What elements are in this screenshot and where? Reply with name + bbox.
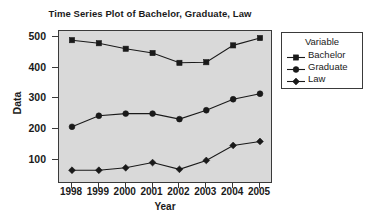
- y-tick-mark: [52, 128, 58, 129]
- data-point: [257, 91, 263, 97]
- data-point: [203, 107, 209, 113]
- legend-item-law[interactable]: Law: [286, 72, 358, 84]
- data-point: [150, 50, 155, 55]
- x-tick-mark: [259, 183, 260, 188]
- series-graduate: [69, 91, 263, 130]
- plot-svg: [59, 31, 273, 184]
- y-tick-mark: [52, 67, 58, 68]
- data-point: [149, 159, 156, 166]
- x-tick-mark: [232, 183, 233, 188]
- data-point: [204, 60, 209, 65]
- x-tick-mark: [152, 183, 153, 188]
- x-tick-mark: [205, 183, 206, 188]
- x-tick-mark: [98, 183, 99, 188]
- y-tick-mark: [52, 159, 58, 160]
- diamond-marker-icon: [286, 73, 306, 84]
- data-point: [96, 113, 102, 119]
- y-axis-title: Data: [11, 73, 23, 133]
- data-point: [257, 138, 264, 145]
- x-tick-mark: [178, 183, 179, 188]
- circle-marker-icon: [286, 61, 306, 72]
- data-point: [230, 142, 237, 149]
- y-tick-label: 100: [12, 153, 46, 165]
- legend-label: Law: [308, 73, 325, 84]
- data-point: [122, 164, 129, 171]
- x-axis-title: Year: [58, 201, 272, 212]
- data-point: [95, 167, 102, 174]
- legend-item-graduate[interactable]: Graduate: [286, 60, 358, 72]
- y-tick-mark: [52, 97, 58, 98]
- data-point: [177, 116, 183, 122]
- series-law: [69, 138, 264, 174]
- legend-label: Graduate: [308, 61, 348, 72]
- x-tick-mark: [125, 183, 126, 188]
- data-point: [176, 166, 183, 173]
- data-point: [69, 38, 74, 43]
- y-tick-mark: [52, 36, 58, 37]
- data-point: [230, 96, 236, 102]
- data-point: [69, 167, 76, 174]
- legend-label: Bachelor: [308, 49, 346, 60]
- data-point: [123, 111, 129, 117]
- legend-entries: BachelorGraduateLaw: [286, 48, 358, 84]
- data-point: [69, 124, 75, 130]
- series-bachelor: [69, 35, 262, 65]
- data-point: [231, 43, 236, 48]
- data-point: [150, 111, 156, 117]
- y-tick-label: 500: [12, 30, 46, 42]
- chart-figure: Time Series Plot of Bachelor, Graduate, …: [0, 0, 370, 224]
- data-point: [96, 41, 101, 46]
- square-marker-icon: [286, 49, 306, 60]
- data-point: [257, 35, 262, 40]
- legend-item-bachelor[interactable]: Bachelor: [286, 48, 358, 60]
- legend: Variable BachelorGraduateLaw: [281, 32, 363, 89]
- legend-title: Variable: [286, 36, 358, 47]
- data-point: [123, 46, 128, 51]
- y-tick-label: 400: [12, 61, 46, 73]
- x-tick-mark: [71, 183, 72, 188]
- data-point: [203, 157, 210, 164]
- data-point: [177, 60, 182, 65]
- plot-area: [58, 30, 272, 183]
